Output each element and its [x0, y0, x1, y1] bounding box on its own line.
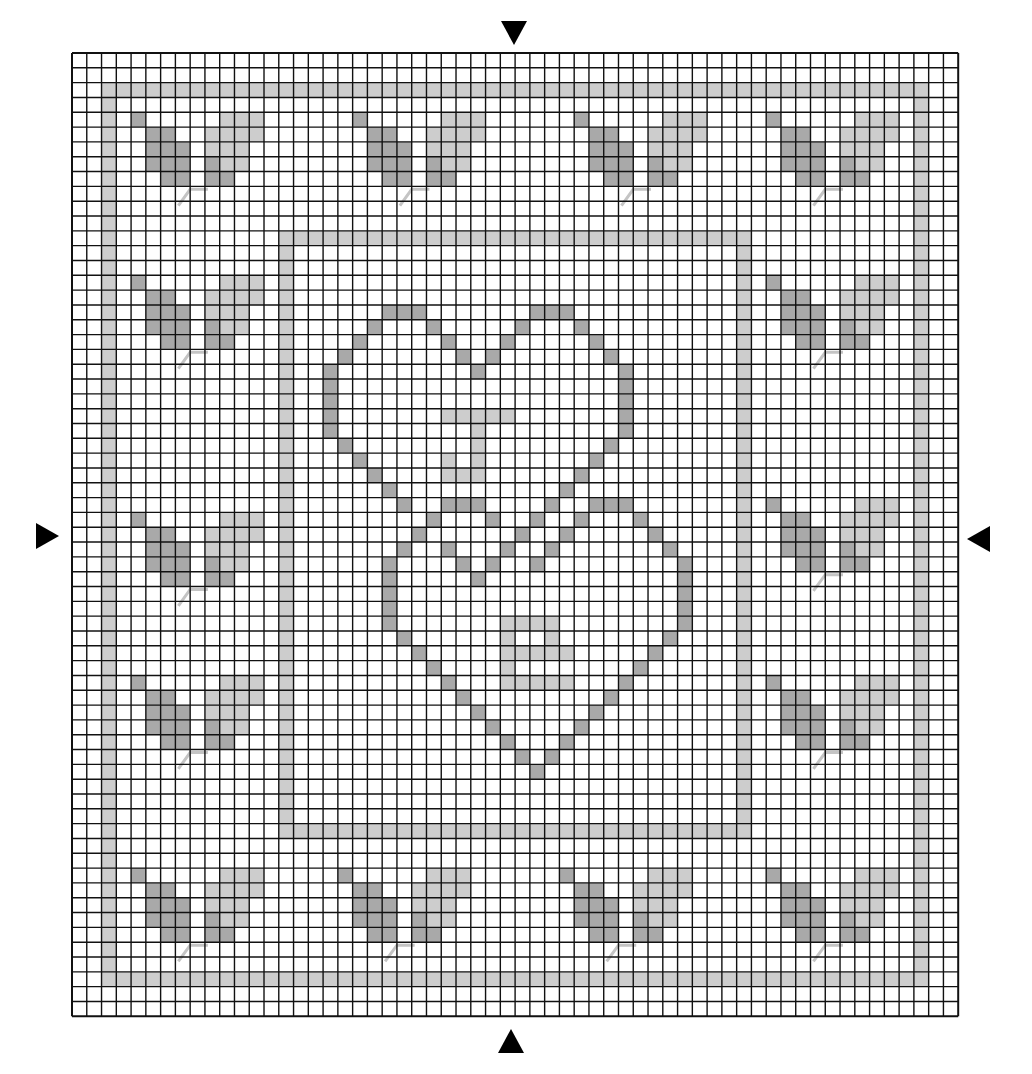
leaf-dark-cell — [205, 320, 220, 335]
inner-frame-cell — [279, 779, 294, 794]
leaf-dark-cell — [382, 127, 397, 142]
leaf-light-cell — [678, 127, 693, 142]
outer-frame-cell — [914, 898, 929, 913]
heart-outline-cell — [471, 498, 486, 513]
leaf-dark-cell — [781, 290, 796, 305]
heart-outline-cell — [382, 601, 397, 616]
leaf-stem-backstitch — [813, 945, 843, 961]
leaf-dark-cell — [811, 320, 826, 335]
outer-frame-cell — [811, 83, 826, 98]
leaf-light-cell — [471, 127, 486, 142]
outer-frame-cell — [559, 83, 574, 98]
inner-frame-cell — [279, 498, 294, 513]
leaf-dark-cell — [840, 542, 855, 557]
leaf-light-cell — [249, 690, 264, 705]
inner-frame-cell — [737, 379, 752, 394]
inner-frame-cell — [279, 320, 294, 335]
leaf-light-cell — [456, 868, 471, 883]
inner-frame-cell — [737, 394, 752, 409]
outer-frame-cell — [604, 83, 619, 98]
outer-frame-cell — [102, 542, 117, 557]
outer-frame-cell — [102, 720, 117, 735]
leaf-light-cell — [234, 690, 249, 705]
outer-frame-cell — [471, 83, 486, 98]
leaf-dark-cell — [781, 320, 796, 335]
heart-outline-cell — [323, 394, 338, 409]
leaf-dark-cell — [161, 542, 176, 557]
leaf-dark-cell — [796, 898, 811, 913]
leaf-dark-cell — [811, 527, 826, 542]
heart-outline-cell — [604, 349, 619, 364]
leaf-light-cell — [426, 883, 441, 898]
outer-frame-cell — [914, 246, 929, 261]
stitch-grid — [0, 0, 1032, 1074]
leaf-dark-cell — [220, 927, 235, 942]
inner-frame-cell — [279, 379, 294, 394]
outer-frame-cell — [102, 186, 117, 201]
heart-outline-cell — [618, 675, 633, 690]
leaf-dark-cell — [855, 927, 870, 942]
bottom-center-marker-icon — [498, 1029, 524, 1053]
outer-frame-cell — [914, 364, 929, 379]
leaf-dark-cell — [175, 557, 190, 572]
leaf-light-cell — [234, 127, 249, 142]
leaf-dark-cell — [161, 127, 176, 142]
leaf-stem-backstitch — [813, 189, 843, 205]
inner-frame-cell — [279, 231, 294, 246]
heart-outline-cell — [515, 320, 530, 335]
leaf-dark-cell — [175, 320, 190, 335]
heart-outline-cell — [530, 764, 545, 779]
leaf-light-cell — [663, 112, 678, 127]
heart-letter-cell — [515, 646, 530, 661]
outer-frame-cell — [102, 498, 117, 513]
outer-frame-cell — [234, 83, 249, 98]
outer-frame-cell — [914, 720, 929, 735]
leaf-dark-cell — [796, 720, 811, 735]
leaf-light-cell — [840, 305, 855, 320]
inner-frame-cell — [618, 231, 633, 246]
leaf-light-cell — [441, 883, 456, 898]
outer-frame-cell — [648, 83, 663, 98]
outer-frame-cell — [353, 83, 368, 98]
outer-frame-cell — [914, 201, 929, 216]
leaf-dark-cell — [146, 720, 161, 735]
outer-frame-cell — [220, 83, 235, 98]
inner-frame-cell — [737, 616, 752, 631]
top-center-marker-icon — [501, 21, 527, 45]
inner-frame-cell — [338, 231, 353, 246]
leaf-dark-cell — [220, 335, 235, 350]
leaf-dark-cell — [796, 927, 811, 942]
leaf-light-cell — [220, 720, 235, 735]
inner-frame-cell — [574, 824, 589, 839]
heart-outline-cell — [618, 409, 633, 424]
leaf-light-cell — [663, 913, 678, 928]
outer-frame-cell — [914, 438, 929, 453]
heart-outline-cell — [486, 512, 501, 527]
outer-frame-cell — [102, 453, 117, 468]
inner-frame-cell — [500, 824, 515, 839]
heart-letter-cell — [545, 616, 560, 631]
heart-outline-cell — [574, 468, 589, 483]
inner-frame-cell — [737, 290, 752, 305]
outer-frame-cell — [102, 779, 117, 794]
inner-frame-cell — [323, 824, 338, 839]
leaf-light-cell — [855, 898, 870, 913]
heart-outline-cell — [559, 527, 574, 542]
leaf-light-cell — [249, 527, 264, 542]
inner-frame-cell — [279, 349, 294, 364]
inner-frame-cell — [737, 750, 752, 765]
outer-frame-cell — [102, 898, 117, 913]
leaf-dark-cell — [618, 172, 633, 187]
leaf-light-cell — [884, 512, 899, 527]
outer-frame-cell — [914, 853, 929, 868]
leaf-light-cell — [220, 868, 235, 883]
outer-frame-cell — [914, 927, 929, 942]
outer-frame-cell — [589, 83, 604, 98]
leaf-light-cell — [870, 112, 885, 127]
leaf-light-cell — [205, 305, 220, 320]
inner-frame-cell — [397, 231, 412, 246]
outer-frame-cell — [589, 972, 604, 987]
leaf-light-cell — [840, 883, 855, 898]
leaf-dark-cell — [161, 305, 176, 320]
leaf-light-cell — [855, 142, 870, 157]
